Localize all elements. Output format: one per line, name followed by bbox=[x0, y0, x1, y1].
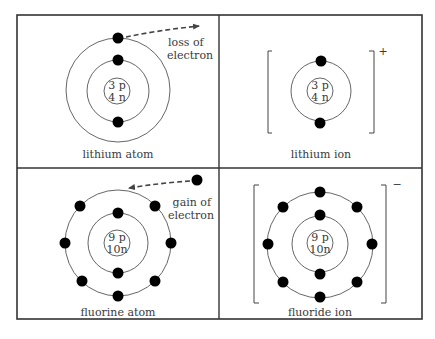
gain-arrow-icon bbox=[129, 181, 190, 188]
electron-icon bbox=[60, 238, 71, 249]
electron-icon bbox=[150, 276, 161, 287]
electron-icon bbox=[113, 55, 124, 66]
electron-icon bbox=[367, 239, 378, 250]
charge-sign: + bbox=[378, 45, 387, 58]
panel-lithium-ion: + 3 p 4 n lithium ion bbox=[268, 45, 388, 161]
electron-icon bbox=[77, 276, 88, 287]
electron-icon bbox=[278, 277, 289, 288]
electron-icon bbox=[278, 202, 289, 213]
panel-label: fluorine atom bbox=[81, 306, 157, 319]
ion-formation-diagram: 3 p 4 n loss of electron lithium atom + … bbox=[0, 0, 435, 339]
charge-sign: − bbox=[392, 178, 401, 191]
electron-icon bbox=[352, 277, 363, 288]
panel-label: lithium ion bbox=[291, 148, 351, 161]
panel-fluoride-ion: − 9 p 10n fluoride ion bbox=[254, 178, 402, 319]
electron-icon bbox=[315, 210, 326, 221]
electron-icon bbox=[113, 291, 124, 302]
panel-label: fluoride ion bbox=[288, 306, 352, 319]
electron-icon bbox=[150, 201, 161, 212]
electron-icon bbox=[315, 292, 326, 303]
annotation-line1: gain of bbox=[173, 196, 212, 209]
electron-icon bbox=[113, 117, 124, 128]
panel-label: lithium atom bbox=[82, 148, 154, 161]
electron-icon bbox=[315, 118, 326, 129]
electron-icon bbox=[113, 268, 124, 279]
neutron-count: 10n bbox=[106, 243, 127, 256]
annotation-line2: electron bbox=[167, 49, 213, 62]
neutron-count: 10n bbox=[309, 243, 330, 256]
electron-icon bbox=[75, 201, 86, 212]
right-bracket bbox=[381, 185, 386, 303]
annotation-line2: electron bbox=[168, 209, 214, 222]
electron-icon bbox=[352, 202, 363, 213]
electron-icon bbox=[315, 187, 326, 198]
electron-icon bbox=[315, 269, 326, 280]
neutron-count: 4 n bbox=[311, 91, 329, 104]
panel-lithium-atom: 3 p 4 n loss of electron lithium atom bbox=[66, 26, 213, 161]
electron-icon bbox=[316, 56, 327, 67]
left-bracket bbox=[254, 185, 259, 303]
electron-icon bbox=[113, 33, 124, 44]
electron-icon bbox=[113, 208, 124, 219]
right-bracket bbox=[369, 51, 374, 133]
electron-icon bbox=[263, 239, 274, 250]
electron-icon bbox=[166, 238, 177, 249]
left-bracket bbox=[268, 51, 272, 133]
incoming-electron-icon bbox=[192, 175, 203, 186]
neutron-count: 4 n bbox=[108, 91, 126, 104]
annotation-line1: loss of bbox=[168, 36, 205, 49]
panel-fluorine-atom: 9 p 10n gain of electron fluorine atom bbox=[60, 175, 215, 320]
